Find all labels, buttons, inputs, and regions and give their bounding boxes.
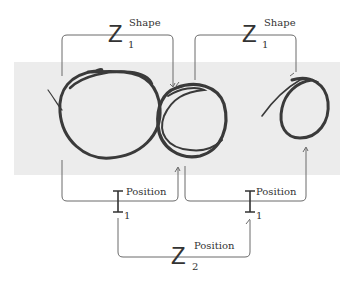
relation-shape-left: Z xyxy=(108,22,123,46)
z-symbol: Z xyxy=(108,20,123,47)
z-symbol: Z xyxy=(171,242,186,269)
relation-shape-left-superscript: Shape xyxy=(129,18,161,28)
relation-position-right-superscript: Position xyxy=(256,187,296,197)
relation-position-combined-superscript: Position xyxy=(194,241,234,251)
relation-shape-left-subscript: 1 xyxy=(128,40,134,50)
relation-shape-right: Z xyxy=(242,22,257,46)
relation-position-left-superscript: Position xyxy=(126,187,166,197)
relation-position-left-subscript: 1 xyxy=(124,211,130,221)
arrowhead-icon xyxy=(246,219,250,224)
i-beam-symbol xyxy=(112,190,124,214)
diagram-canvas: Z Shape 1 Z Shape 1 Position 1 Position … xyxy=(0,0,356,287)
relation-position-right-subscript: 1 xyxy=(256,211,262,221)
i-beam-symbol xyxy=(244,190,256,214)
relation-position-combined-subscript: 2 xyxy=(192,262,198,272)
relation-position-combined: Z xyxy=(171,244,186,268)
relation-shape-right-superscript: Shape xyxy=(264,18,296,28)
relation-shape-right-subscript: 1 xyxy=(262,40,268,50)
z-symbol: Z xyxy=(242,20,257,47)
